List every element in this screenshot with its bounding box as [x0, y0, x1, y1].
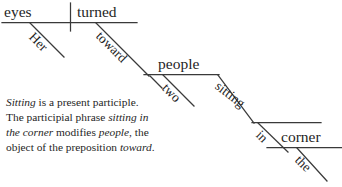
note-line-1-rest: is a present participle. — [36, 96, 139, 108]
word-prep-object: people — [158, 56, 199, 72]
word-subject: eyes — [4, 4, 32, 20]
word-verb: turned — [77, 4, 117, 20]
note-line-2: The participial phrase sitting in — [6, 110, 182, 125]
note-line-4-rest: . — [152, 141, 155, 153]
word-participle-prep-object: corner — [281, 129, 321, 145]
note-line-3-rest: , the — [129, 126, 149, 138]
slant-toward-tail — [150, 76, 162, 88]
note-line-3: the corner modifies people, the — [6, 125, 182, 140]
note-line-2-italic: sitting in — [108, 111, 148, 123]
note-line-1-italic: Sitting — [6, 96, 36, 108]
note-line-4-italic: toward — [120, 141, 152, 153]
note-line-4-pre: object of the preposition — [6, 141, 120, 153]
note-line-3-mid: modifies — [53, 126, 99, 138]
note-line-3-italic: the corner — [6, 126, 53, 138]
sentence-diagram-page: eyes turned people corner Her toward two… — [0, 0, 342, 187]
note-line-2-pre: The participial phrase — [6, 111, 108, 123]
explanation-note: Sitting is a present participle. The par… — [6, 95, 182, 155]
note-line-3-italic2: people — [99, 126, 129, 138]
note-line-4: object of the preposition toward. — [6, 140, 182, 155]
note-line-1: Sitting is a present participle. — [6, 95, 182, 110]
